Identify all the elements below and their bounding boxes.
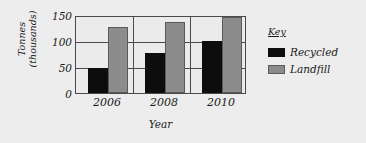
bar-chart-figure: Tonnes (thousands) 150 100 50 0 2006 200… [0, 0, 366, 143]
legend-label-landfill: Landfill [290, 63, 330, 75]
x-tick-label: 2006 [79, 96, 135, 109]
legend-title: Key [268, 26, 286, 37]
plot-area [75, 16, 246, 94]
legend-label-recycled: Recycled [290, 46, 338, 58]
legend-item-recycled: Recycled [268, 46, 362, 58]
y-tick-label: 50 [44, 62, 72, 74]
legend-item-landfill: Landfill [268, 63, 362, 75]
legend-title-wrap: Key [268, 20, 362, 41]
legend-swatch-recycled-icon [268, 48, 285, 57]
y-tick-label: 150 [44, 10, 72, 22]
bar-recycled-2008 [145, 53, 165, 93]
x-tick-label: 2008 [136, 96, 192, 109]
group-separator [190, 17, 191, 93]
y-tick-label: 0 [44, 88, 72, 100]
y-axis-tick-labels: 150 100 50 0 [42, 0, 72, 143]
x-tick-label: 2010 [193, 96, 249, 109]
x-axis-tick-labels: 2006 2008 2010 [75, 96, 246, 112]
bar-recycled-2006 [88, 68, 108, 93]
bar-landfill-2008 [165, 22, 185, 93]
y-tick-label: 100 [44, 36, 72, 48]
group-separator [133, 17, 134, 93]
y-axis-title: Tonnes (thousands) [16, 0, 42, 82]
bar-landfill-2006 [108, 27, 128, 93]
legend-swatch-landfill-icon [268, 65, 285, 74]
bar-recycled-2010 [202, 41, 222, 93]
chart-legend: Key Recycled Landfill [268, 20, 362, 75]
x-axis-title: Year [75, 118, 246, 130]
bar-landfill-2010 [222, 17, 242, 93]
